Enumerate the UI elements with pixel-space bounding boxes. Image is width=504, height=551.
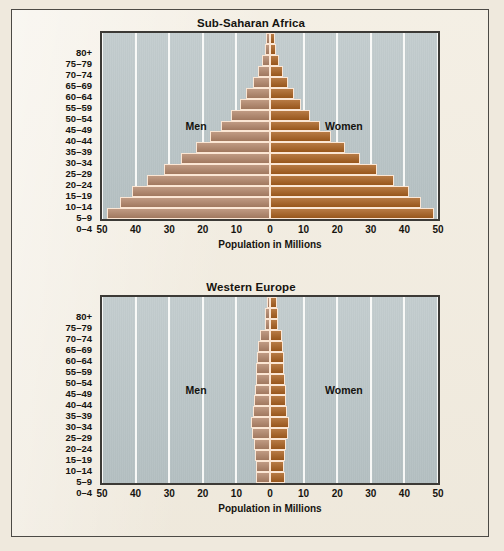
bar-men [196,142,270,153]
x-tick-label: 40 [399,224,410,235]
bar-row [102,472,438,483]
bar-men [251,417,270,428]
age-group-label: 0–4 [76,488,92,498]
bar-men [260,330,270,341]
bar-men [257,352,270,363]
bar-women [270,131,331,142]
bar-women [270,461,284,472]
x-tick-label: 40 [399,488,410,499]
bar-row [102,395,438,406]
bar-women [270,363,284,374]
bar-women [270,385,286,396]
bar-women [270,297,277,308]
age-group-label: 65–69 [66,345,92,355]
age-group-label: 70–74 [66,334,92,344]
bar-men [255,385,270,396]
bar-women [270,428,288,439]
age-group-label: 75–79 [66,323,92,333]
series-label-men: Men [186,384,207,396]
bar-row [102,110,438,121]
x-tick-label: 20 [332,224,343,235]
bar-row [102,164,438,175]
bar-row [102,450,438,461]
bar-women [270,330,282,341]
bar-women [270,450,285,461]
age-group-label: 35–39 [66,411,92,421]
bar-row [102,319,438,330]
bar-women [270,110,310,121]
figure-frame: Sub-Saharan Africa 80+75–7970–7465–6960–… [11,9,489,537]
age-group-label: 10–14 [66,466,92,476]
bar-women [270,121,320,132]
bar-women [270,319,278,330]
age-group-label: 35–39 [66,147,92,157]
age-group-label: 50–54 [66,378,92,388]
bar-men [181,153,270,164]
bar-rows [102,33,438,219]
age-group-label: 60–64 [66,92,92,102]
x-tick-label: 30 [365,488,376,499]
x-tick-label: 10 [231,224,242,235]
x-axis-tick-labels: 504030201001020304050 [100,488,440,502]
x-tick-label: 10 [298,224,309,235]
bar-women [270,208,434,219]
x-tick-label: 30 [164,224,175,235]
age-group-label: 30–34 [66,158,92,168]
bar-row [102,131,438,142]
chart-title: Sub-Saharan Africa [12,16,490,31]
age-group-label: 15–19 [66,455,92,465]
x-tick-label: 50 [96,488,107,499]
bar-row [102,330,438,341]
x-tick-label: 10 [298,488,309,499]
bar-row [102,55,438,66]
bar-men [256,363,270,374]
bar-row [102,428,438,439]
bar-men [258,341,270,352]
bar-row [102,77,438,88]
bar-men [246,88,270,99]
bar-men [252,428,270,439]
bar-men [107,208,270,219]
age-group-label: 0–4 [76,224,92,234]
bar-row [102,44,438,55]
x-tick-label: 50 [432,488,443,499]
series-label-women: Women [325,384,363,396]
bar-women [270,77,288,88]
bar-women [270,99,301,110]
bar-women [270,142,345,153]
age-group-label: 40–44 [66,400,92,410]
x-tick-label: 0 [267,224,273,235]
bar-row [102,99,438,110]
age-group-label: 45–49 [66,389,92,399]
age-group-label: 20–24 [66,444,92,454]
age-group-label: 45–49 [66,125,92,135]
bar-men [253,406,270,417]
bar-men [132,186,270,197]
x-tick-label: 40 [130,224,141,235]
bar-men [210,131,270,142]
age-group-label: 55–59 [66,103,92,113]
bar-women [270,374,285,385]
bar-men [254,395,270,406]
x-tick-label: 10 [231,488,242,499]
chart-title: Western Europe [12,280,490,295]
x-tick-label: 40 [130,488,141,499]
bar-row [102,175,438,186]
bar-women [270,472,285,483]
x-tick-label: 30 [365,224,376,235]
bar-row [102,208,438,219]
age-group-label: 30–34 [66,422,92,432]
bar-women [270,341,283,352]
x-tick-label: 20 [197,224,208,235]
bar-row [102,308,438,319]
bar-row [102,297,438,308]
bar-women [270,175,394,186]
bar-women [270,395,286,406]
bar-women [270,55,279,66]
x-tick-label: 50 [432,224,443,235]
age-group-label: 25–29 [66,169,92,179]
bar-women [270,88,294,99]
bar-men [254,439,270,450]
bar-men [231,110,270,121]
bar-row [102,406,438,417]
